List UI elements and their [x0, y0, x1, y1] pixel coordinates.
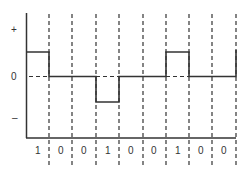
bit-label: 1 — [35, 145, 41, 156]
bit-boundaries — [49, 14, 236, 168]
bit-label: 0 — [221, 145, 227, 156]
bit-label: 0 — [151, 145, 157, 156]
minus-label: – — [12, 112, 18, 123]
bit-label: 0 — [58, 145, 64, 156]
plus-label: + — [11, 24, 17, 35]
zero-label: 0 — [11, 71, 17, 82]
bit-label: 0 — [128, 145, 134, 156]
waveform-diagram: + 0 – 1 0 0 1 0 0 1 0 0 — [0, 0, 252, 171]
bit-label: 1 — [175, 145, 181, 156]
signal-waveform — [27, 50, 237, 102]
bit-label: 0 — [81, 145, 87, 156]
bit-label: 1 — [105, 145, 111, 156]
bit-label: 0 — [198, 145, 204, 156]
bit-labels: 1 0 0 1 0 0 1 0 0 — [35, 145, 227, 156]
